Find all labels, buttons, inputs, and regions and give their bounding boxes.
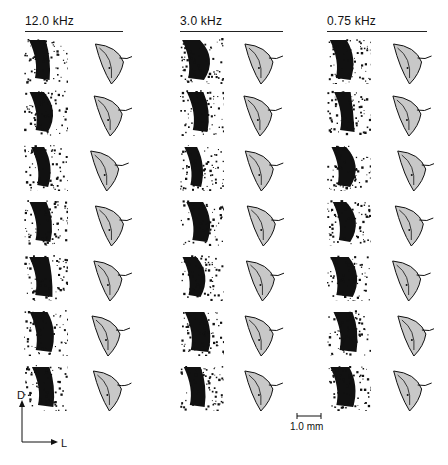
scale-bar-label: 1.0 mm <box>290 421 323 432</box>
autoradiograph-panel <box>327 145 371 191</box>
autoradiograph-panel <box>24 145 68 191</box>
autoradiograph-panel <box>327 200 371 246</box>
column-header-12khz: 12.0 kHz <box>25 14 74 28</box>
autoradiograph-panel <box>327 255 371 301</box>
autoradiograph-panel <box>24 38 68 84</box>
column-header-3khz: 3.0 kHz <box>180 14 222 28</box>
autoradiograph-panel <box>180 90 224 136</box>
orientation-arrows-icon <box>14 394 64 454</box>
brainstem-outline-drawing <box>228 200 284 250</box>
brainstem-outline-drawing <box>378 90 434 140</box>
autoradiograph-panel <box>327 38 371 84</box>
brainstem-outline-drawing <box>76 90 132 140</box>
column-rule-3khz <box>180 31 283 32</box>
dorsal-label: D <box>17 389 25 401</box>
brainstem-outline-drawing <box>76 310 132 360</box>
brainstem-outline-drawing <box>76 38 132 88</box>
brainstem-outline-drawing <box>76 255 132 305</box>
column-rule-075khz <box>327 31 427 32</box>
brainstem-outline-drawing <box>76 145 132 195</box>
autoradiograph-panel <box>24 255 68 301</box>
brainstem-outline-drawing <box>228 145 284 195</box>
brainstem-outline-drawing <box>76 200 132 250</box>
autoradiograph-panel <box>180 38 224 84</box>
autoradiograph-panel <box>180 200 224 246</box>
autoradiograph-panel <box>24 200 68 246</box>
scale-bar <box>296 412 322 420</box>
brainstem-outline-drawing <box>228 310 284 360</box>
brainstem-outline-drawing <box>378 38 434 88</box>
autoradiograph-panel <box>180 145 224 191</box>
brainstem-outline-drawing <box>228 255 284 305</box>
brainstem-outline-drawing <box>378 145 434 195</box>
brainstem-outline-drawing <box>378 200 434 250</box>
column-header-075khz: 0.75 kHz <box>327 14 376 28</box>
autoradiograph-panel <box>180 310 224 356</box>
autoradiograph-panel <box>180 365 224 411</box>
brainstem-outline-drawing <box>378 255 434 305</box>
lateral-label: L <box>61 437 67 449</box>
column-rule-12khz <box>25 31 123 32</box>
brainstem-outline-drawing <box>228 90 284 140</box>
brainstem-outline-drawing <box>378 365 434 415</box>
autoradiograph-panel <box>24 90 68 136</box>
brainstem-outline-drawing <box>228 365 284 415</box>
scale-bar-line-icon <box>296 412 322 420</box>
brainstem-outline-drawing <box>76 365 132 415</box>
autoradiograph-panel <box>327 310 371 356</box>
brainstem-outline-drawing <box>378 310 434 360</box>
autoradiograph-panel <box>24 310 68 356</box>
orientation-axis <box>14 394 64 454</box>
autoradiograph-panel <box>327 365 371 411</box>
autoradiograph-panel <box>180 255 224 301</box>
brainstem-outline-drawing <box>228 38 284 88</box>
autoradiograph-panel <box>327 90 371 136</box>
